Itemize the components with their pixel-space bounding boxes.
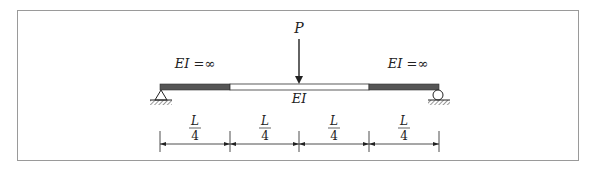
segment-label-left: EI =∞ xyxy=(174,56,215,71)
beam-diagram: P EI =∞ EI EI =∞ L xyxy=(0,0,595,172)
svg-text:4: 4 xyxy=(330,129,338,143)
pin-support-icon xyxy=(150,90,172,105)
svg-text:4: 4 xyxy=(191,129,199,143)
dimension-label-3: L 4 xyxy=(328,114,340,143)
svg-text:L: L xyxy=(399,114,408,128)
dimension-label-1: L 4 xyxy=(189,114,201,143)
svg-text:L: L xyxy=(329,114,338,128)
load-arrow xyxy=(295,39,303,84)
beam xyxy=(160,84,439,90)
beam-segment-rigid-left xyxy=(160,84,230,90)
beam-segment-rigid-right xyxy=(369,84,439,90)
beam-segment-flexible xyxy=(230,84,369,90)
dimension-line xyxy=(160,131,439,152)
svg-text:4: 4 xyxy=(400,129,408,143)
svg-text:L: L xyxy=(260,114,269,128)
segment-label-middle: EI xyxy=(291,91,307,106)
dimension-label-2: L 4 xyxy=(259,114,271,143)
svg-text:4: 4 xyxy=(261,129,269,143)
load-label: P xyxy=(293,20,304,36)
dimension-label-4: L 4 xyxy=(398,114,410,143)
segment-label-right: EI =∞ xyxy=(387,56,428,71)
roller-support-icon xyxy=(428,90,450,105)
svg-text:L: L xyxy=(190,114,199,128)
